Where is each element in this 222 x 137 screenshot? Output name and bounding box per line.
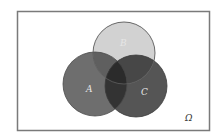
set-b-label: B — [119, 38, 127, 48]
venn-diagram: B A C Ω — [0, 0, 222, 137]
universe-label: Ω — [184, 113, 193, 123]
set-c-label: C — [141, 87, 148, 97]
set-a-label: A — [85, 84, 93, 94]
